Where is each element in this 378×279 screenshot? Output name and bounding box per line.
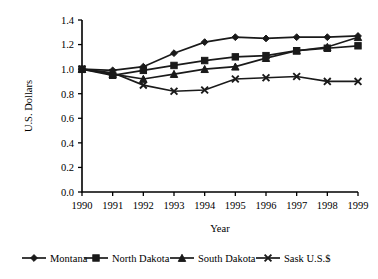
marker-square — [232, 54, 238, 60]
marker-square — [171, 62, 177, 68]
line-chart-canvas: 0.00.20.40.60.81.01.21.41990199119921993… — [0, 0, 378, 279]
x-tick-label: 1991 — [102, 200, 123, 211]
series-line — [82, 36, 358, 70]
legend-label: Montana — [50, 253, 88, 264]
marker-diamond — [31, 255, 38, 262]
legend-entry-north-dakota[interactable]: North Dakota — [84, 253, 170, 264]
x-tick-label: 1998 — [317, 200, 338, 211]
chart-figure: 0.00.20.40.60.81.01.21.41990199119921993… — [0, 0, 378, 279]
y-tick-label: 1.2 — [61, 39, 74, 50]
chart-legend: MontanaNorth DakotaSouth DakotaSask U.S.… — [22, 253, 330, 264]
x-tick-label: 1990 — [72, 200, 93, 211]
y-tick-label: 0.4 — [61, 138, 75, 149]
marker-square — [355, 43, 361, 49]
legend-label: Sask U.S.$ — [284, 253, 330, 264]
y-tick-label: 1.4 — [61, 15, 75, 26]
x-tick-label: 1999 — [348, 200, 369, 211]
marker-square — [201, 57, 207, 63]
y-tick-label: 0.8 — [61, 89, 74, 100]
x-tick-label: 1995 — [225, 200, 246, 211]
x-tick-label: 1992 — [133, 200, 154, 211]
series-line — [82, 46, 358, 75]
x-axis-title: Year — [210, 223, 230, 234]
marker-diamond — [293, 34, 300, 41]
marker-diamond — [324, 34, 331, 41]
series-line — [82, 69, 358, 91]
marker-diamond — [263, 35, 270, 42]
legend-entry-sask-u-s[interactable]: Sask U.S.$ — [256, 253, 330, 264]
legend-label: North Dakota — [112, 253, 170, 264]
marker-square — [140, 67, 146, 73]
plot-axes — [82, 20, 358, 192]
x-tick-label: 1993 — [164, 200, 185, 211]
y-tick-label: 0.2 — [61, 162, 74, 173]
y-axis-title: U.S. Dollars — [23, 80, 34, 132]
marker-diamond — [171, 50, 178, 57]
legend-entry-south-dakota[interactable]: South Dakota — [170, 253, 256, 264]
x-tick-label: 1994 — [194, 200, 216, 211]
legend-label: South Dakota — [198, 253, 256, 264]
y-tick-label: 1.0 — [61, 64, 74, 75]
marker-diamond — [232, 34, 239, 41]
marker-square — [93, 255, 99, 261]
legend-entry-montana[interactable]: Montana — [22, 253, 88, 264]
x-tick-label: 1996 — [256, 200, 277, 211]
y-tick-label: 0.0 — [61, 187, 74, 198]
marker-diamond — [201, 39, 208, 46]
x-tick-label: 1997 — [286, 200, 307, 211]
y-tick-label: 0.6 — [61, 113, 74, 124]
